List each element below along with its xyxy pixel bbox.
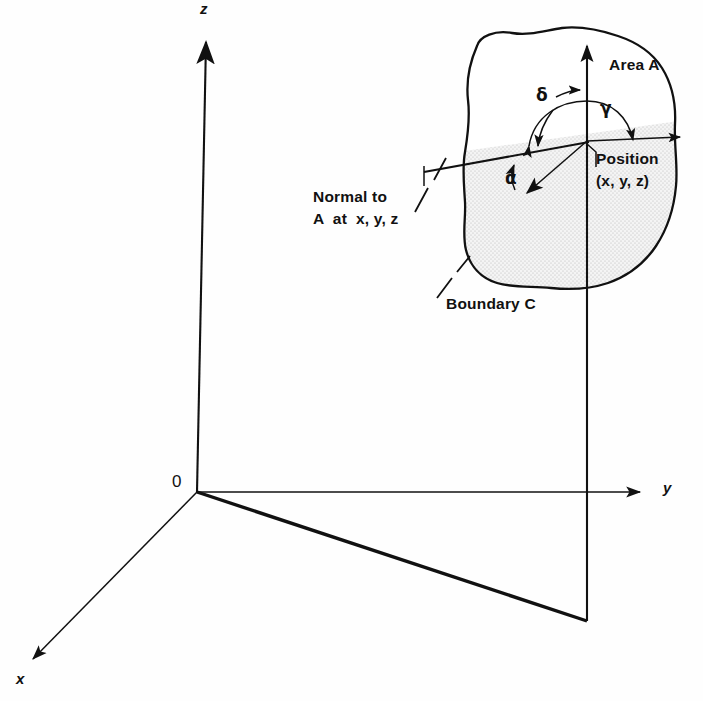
area-a-label: Area A xyxy=(609,56,660,74)
gamma-angle-label: γ xyxy=(600,98,612,118)
floor-diagonal-line xyxy=(197,492,587,621)
normal-label-leader xyxy=(415,158,446,212)
z-axis-label: z xyxy=(200,0,208,18)
z-axis xyxy=(197,42,206,492)
boundary-c-label: Boundary C xyxy=(446,295,536,313)
figure-canvas: z y x 0 Area A δ γ α Position (x, y, z) … xyxy=(0,0,703,701)
delta-angle-label: δ xyxy=(536,85,548,105)
y-axis-label: y xyxy=(663,479,672,497)
normal-label-line2: A at x, y, z xyxy=(313,210,399,228)
position-label-line2: (x, y, z) xyxy=(596,172,649,190)
normal-label-line1: Normal to xyxy=(313,188,387,206)
x-axis xyxy=(33,492,197,659)
origin-label: 0 xyxy=(172,472,182,492)
diagram-svg xyxy=(0,0,703,701)
x-axis-label: x xyxy=(16,670,25,688)
boundary-label-leader xyxy=(437,256,470,298)
alpha-angle-label: α xyxy=(505,168,517,188)
position-label-line1: Position xyxy=(596,150,659,168)
